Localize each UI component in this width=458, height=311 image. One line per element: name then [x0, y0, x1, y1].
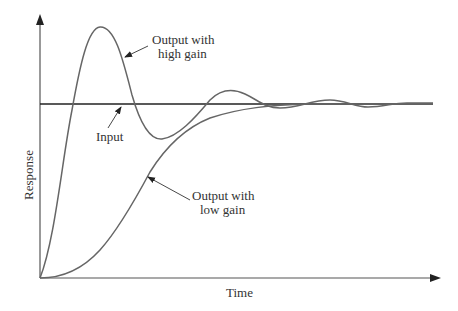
annotation-low-gain: Output with low gain [148, 177, 255, 217]
annotation-high-gain: Output with high gain [125, 32, 215, 61]
input-label: Input [96, 129, 124, 144]
low-gain-label-2: low gain [200, 202, 246, 217]
low-gain-label-1: Output with [192, 188, 255, 203]
y-axis-label: Response [21, 150, 36, 200]
high-gain-label-1: Output with [152, 32, 215, 47]
y-axis-arrow-icon [36, 14, 44, 25]
y-axis [36, 14, 44, 278]
x-axis-label: Time [226, 285, 253, 300]
x-axis-arrow-icon [430, 274, 441, 282]
high-gain-label-2: high gain [158, 46, 207, 61]
x-axis [40, 274, 441, 282]
response-chart: Output with high gain Input Output with … [0, 0, 458, 311]
annotation-input: Input [96, 107, 124, 144]
high-gain-curve [40, 27, 433, 278]
